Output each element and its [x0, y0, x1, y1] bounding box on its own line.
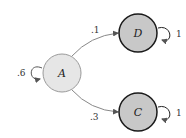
node-d-label: D — [133, 27, 143, 40]
node-d: D — [119, 14, 157, 52]
node-a-label: A — [57, 67, 66, 80]
edge-label-a-self: .6 — [17, 68, 26, 78]
edge-label-a-to-c: .3 — [90, 112, 99, 122]
self-loop-c — [158, 106, 170, 119]
edge-label-a-to-d: .1 — [91, 25, 100, 35]
self-loop-d — [158, 27, 170, 40]
node-a: A — [43, 54, 81, 92]
self-loop-a — [31, 67, 42, 79]
node-c-label: C — [134, 106, 143, 119]
edge-label-d-self: 1 — [176, 29, 182, 39]
edge-a-to-c — [72, 90, 118, 112]
edge-label-c-self: 1 — [176, 108, 182, 118]
markov-diagram: .1 .3 .6 1 1 A D C — [0, 0, 186, 138]
edge-a-to-d — [72, 33, 118, 56]
node-c: C — [119, 93, 157, 131]
